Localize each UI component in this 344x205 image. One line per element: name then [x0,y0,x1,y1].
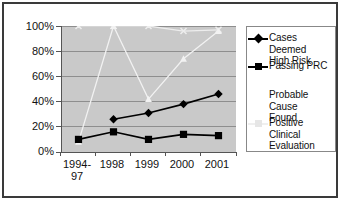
x-axis-line [60,152,237,153]
xtick-label-2001: 2001 [195,158,239,170]
series-probable-cause-found [75,26,222,145]
xtick-4 [200,152,201,156]
xtick-2 [130,152,131,156]
diamond-marker-icon [247,33,269,45]
legend-item-positive-clinical-evaluation[interactable]: Positive Clinical Evaluation [247,117,335,152]
ytick-label-100: 100% [8,21,54,32]
legend-label: Passing PRC [269,60,327,72]
xtick-5 [236,152,237,156]
cross-marker-icon [247,118,269,130]
ytick-label-80: 80% [8,46,54,57]
chart-legend: Cases Deemed High Risk Passing PRC Proba… [246,26,336,152]
xtick-3 [165,152,166,156]
xtick-1 [95,152,96,156]
legend-item-passing-prc[interactable]: Passing PRC [247,60,335,73]
chart-frame: 100% 80% 60% 40% 20% 0% 1994- 97 1998 19… [2,2,338,198]
triangle-marker-icon [247,90,269,102]
ytick-label-0: 0% [8,146,54,157]
ytick-label-60: 60% [8,71,54,82]
xtick-0 [60,152,61,156]
series-passing-prc [75,128,222,143]
series-positive-clinical-evaluation [76,26,222,34]
legend-label: Positive Clinical Evaluation [269,117,335,152]
ytick-label-40: 40% [8,96,54,107]
series-layer [61,26,236,152]
ytick-label-20: 20% [8,121,54,132]
series-cases-deemed-high-risk [109,90,222,124]
square-marker-icon [247,61,269,73]
